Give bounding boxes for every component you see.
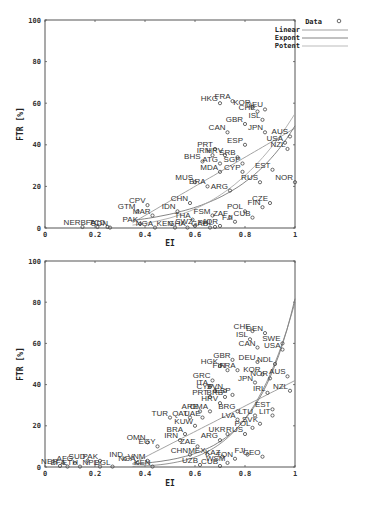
point-label: NZL	[270, 140, 286, 149]
x-tick-label: 0.8	[239, 231, 252, 239]
point-label: ETH	[62, 458, 78, 467]
legend-linear-label: Linear	[275, 26, 300, 34]
point-label: ARG	[211, 182, 228, 191]
y-tick-label: 40	[33, 381, 41, 389]
point-label: GHA	[168, 219, 186, 228]
data-point	[271, 168, 274, 171]
scatter-chart-bottom: 00.20.40.60.81020406080100EIFTR [%]CHEDE…	[16, 258, 297, 489]
data-point	[188, 201, 191, 204]
data-point	[286, 147, 289, 150]
y-tick-label: 80	[33, 299, 41, 307]
x-tick-label: 0.6	[189, 231, 202, 239]
point-label: DEU	[246, 100, 263, 109]
data-point	[233, 220, 236, 223]
y-tick-label: 100	[28, 17, 41, 25]
data-point	[168, 416, 171, 419]
x-tick-label: 0.4	[139, 470, 152, 478]
data-point	[261, 206, 264, 209]
data-point	[288, 389, 291, 392]
scatter-figure: 00.20.40.60.81020406080100EIFTR [%]HKGFR…	[0, 0, 365, 506]
point-label: FRA	[215, 92, 232, 101]
x-tick-label: 0	[43, 470, 47, 478]
data-point	[201, 416, 204, 419]
data-point	[271, 414, 274, 417]
data-point	[268, 201, 271, 204]
y-tick-label: 60	[33, 340, 41, 348]
data-point	[286, 375, 289, 378]
point-label: CHN	[171, 446, 189, 455]
data-point	[226, 461, 229, 464]
data-point	[208, 410, 211, 413]
point-label: NGA	[136, 219, 154, 228]
x-axis-label: EI	[165, 239, 175, 248]
x-tick-label: 0.4	[139, 231, 152, 239]
point-label: EGY	[139, 437, 157, 446]
point-label: CUB	[201, 457, 218, 466]
point-label: BHS	[184, 152, 200, 161]
point-label: IRN	[164, 431, 178, 440]
point-label: DEU	[239, 353, 256, 362]
point-label: BGL	[94, 458, 111, 467]
data-point	[243, 122, 246, 125]
point-label: RUS	[226, 425, 243, 434]
x-axis-label: EI	[165, 479, 175, 488]
point-label: RUS	[241, 173, 258, 182]
legend-expont-label: Expont	[275, 34, 300, 42]
point-label: BRA	[189, 177, 206, 186]
y-tick-label: 0	[37, 225, 41, 233]
point-label: AUS	[269, 367, 285, 376]
legend-data-marker-icon	[337, 19, 341, 23]
point-label: TUR	[152, 409, 169, 418]
data-point	[183, 432, 186, 435]
data-point	[261, 118, 264, 121]
point-label: IRL	[253, 384, 266, 393]
scatter-chart-top: 00.20.40.60.81020406080100EIFTR [%]HKGFR…	[16, 17, 297, 249]
data-point	[256, 346, 259, 349]
point-label: CAN	[209, 123, 226, 132]
x-tick-label: 1	[293, 470, 297, 478]
data-point	[218, 162, 221, 165]
data-point	[231, 393, 234, 396]
data-point	[266, 391, 269, 394]
y-tick-label: 100	[28, 258, 41, 266]
data-point	[206, 185, 209, 188]
data-point	[223, 395, 226, 398]
point-label: CYP	[224, 163, 240, 172]
legend-potent-label: Potent	[275, 42, 300, 50]
legend: Data Linear Expont Potent	[275, 18, 348, 50]
data-point	[251, 426, 254, 429]
point-label: FSM	[194, 207, 211, 216]
data-point	[271, 408, 274, 411]
point-label: ISL	[248, 111, 261, 120]
point-label: NDL	[257, 355, 274, 364]
data-point	[151, 214, 154, 217]
x-tick-label: 0	[43, 231, 47, 239]
data-point	[218, 102, 221, 105]
data-point	[241, 162, 244, 165]
point-label: ARG	[201, 431, 218, 440]
x-tick-label: 0.6	[189, 470, 202, 478]
y-axis-label: FTR [%]	[16, 107, 25, 141]
data-point	[156, 445, 159, 448]
data-point	[261, 455, 264, 458]
data-point	[243, 143, 246, 146]
x-tick-label: 1	[293, 231, 297, 239]
point-label: JPN	[238, 374, 253, 383]
point-label: FRA	[220, 361, 237, 370]
point-label: GEO	[243, 448, 261, 457]
data-point	[193, 424, 196, 427]
data-point	[233, 457, 236, 460]
legend-data-label: Data	[305, 18, 322, 26]
point-label: USA	[264, 341, 281, 350]
point-label: NZL	[273, 382, 289, 391]
point-label: NOR	[275, 173, 293, 182]
point-label: MDA	[200, 163, 218, 172]
point-label: SDN	[91, 219, 108, 228]
x-tick-label: 0.8	[239, 470, 252, 478]
data-point	[258, 181, 261, 184]
data-point	[251, 216, 254, 219]
data-point	[258, 422, 261, 425]
point-label: JPN	[248, 123, 263, 132]
point-label: UZB	[182, 456, 198, 465]
point-label: GBR	[226, 115, 244, 124]
